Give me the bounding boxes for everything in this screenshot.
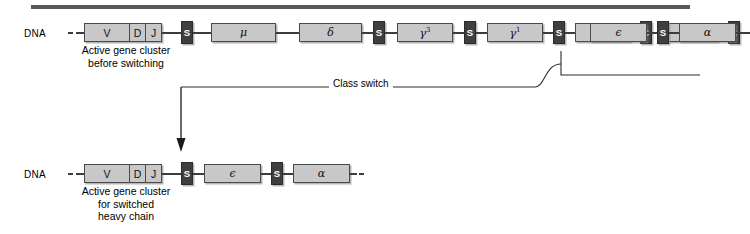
bottom-switch-region-1: S [181, 162, 193, 185]
bottom-v-segment: V [85, 165, 130, 182]
bottom-gene-alpha-label: α [318, 167, 325, 180]
bottom-strand-line-f [350, 173, 357, 174]
bottom-d-segment: D [130, 165, 147, 182]
bottom-switch-region-2: S [271, 162, 283, 185]
bottom-caption-line-1: Active gene cluster [66, 185, 186, 198]
bottom-caption-line-3: heavy chain [66, 210, 186, 223]
bottom-gene-epsilon-label: ϵ [229, 167, 235, 180]
bottom-dna-strand: V D J S ϵ S α [68, 161, 328, 187]
top-tail-line-c [736, 32, 743, 33]
bottom-strand-line-b [162, 173, 181, 174]
bottom-vdj-box: V D J [84, 164, 162, 183]
bottom-dna-label: DNA [24, 169, 46, 180]
bottom-strand-left-tick [68, 173, 73, 174]
bottom-strand-line-d [261, 173, 271, 174]
bottom-strand-line-e [283, 173, 293, 174]
bottom-caption-line-2: for switched [66, 198, 186, 211]
class-switch-label: Class switch [329, 78, 393, 89]
bottom-strand-line-c [193, 173, 204, 174]
bottom-gene-epsilon: ϵ [204, 164, 261, 183]
bottom-caption: Active gene cluster for switched heavy c… [66, 185, 186, 223]
bottom-gene-alpha: α [293, 164, 350, 183]
bottom-strand-right-tick [359, 173, 364, 174]
class-switch-arrowhead [177, 138, 186, 152]
top-strand-right-tick [745, 32, 750, 33]
bottom-j-segment: J [146, 165, 161, 182]
bottom-strand-line-a [76, 173, 84, 174]
